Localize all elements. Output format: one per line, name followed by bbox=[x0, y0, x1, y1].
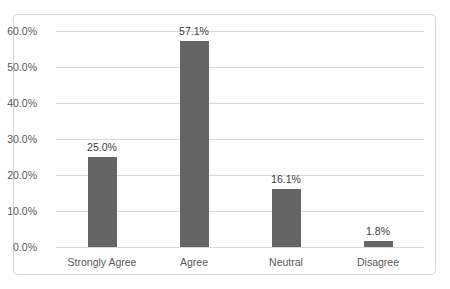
x-axis-category-label: Neutral bbox=[269, 256, 303, 268]
bar-value-label: 25.0% bbox=[87, 141, 117, 153]
y-axis-tick-label: 0.0% bbox=[0, 241, 37, 253]
y-axis-tick-label: 10.0% bbox=[0, 205, 37, 217]
y-axis-tick-label: 50.0% bbox=[0, 61, 37, 73]
bar-value-label: 1.8% bbox=[366, 225, 390, 237]
y-gridline bbox=[56, 31, 424, 32]
y-gridline bbox=[56, 67, 424, 68]
bar-neutral bbox=[272, 189, 301, 247]
bar-strongly-agree bbox=[88, 157, 117, 247]
bar-disagree bbox=[364, 241, 393, 247]
bar-value-label: 16.1% bbox=[271, 173, 301, 185]
bar-chart: 0.0%10.0%20.0%30.0%40.0%50.0%60.0%25.0%S… bbox=[13, 14, 436, 275]
plot-area: 0.0%10.0%20.0%30.0%40.0%50.0%60.0%25.0%S… bbox=[56, 25, 424, 247]
y-axis-tick-label: 40.0% bbox=[0, 97, 37, 109]
y-axis-tick-label: 20.0% bbox=[0, 169, 37, 181]
x-axis-category-label: Disagree bbox=[357, 256, 399, 268]
x-axis-category-label: Agree bbox=[180, 256, 208, 268]
y-axis-tick-label: 30.0% bbox=[0, 133, 37, 145]
x-axis-category-label: Strongly Agree bbox=[68, 256, 137, 268]
y-axis-tick-label: 60.0% bbox=[0, 25, 37, 37]
y-gridline bbox=[56, 103, 424, 104]
bar-value-label: 57.1% bbox=[179, 25, 209, 37]
bar-agree bbox=[180, 41, 209, 247]
y-gridline bbox=[56, 139, 424, 140]
